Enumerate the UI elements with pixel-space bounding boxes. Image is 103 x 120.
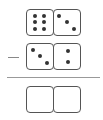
- pip: [33, 20, 37, 24]
- pip: [38, 54, 42, 58]
- pip: [33, 27, 37, 31]
- domino-half-six: [26, 9, 54, 36]
- minuend-domino: [26, 9, 82, 36]
- pip: [45, 61, 49, 65]
- answer-half-left[interactable]: [26, 86, 54, 113]
- pip: [65, 20, 69, 24]
- equals-rule: [7, 77, 100, 78]
- pip: [33, 14, 37, 18]
- domino-half-two: [53, 43, 81, 70]
- pip: [31, 48, 35, 52]
- pip: [66, 60, 70, 64]
- pip: [42, 14, 46, 18]
- pip: [42, 20, 46, 24]
- domino-half-three: [26, 43, 54, 70]
- minus-sign: [8, 57, 19, 58]
- subtrahend-domino: [26, 43, 82, 70]
- pip: [72, 27, 76, 31]
- pip: [42, 27, 46, 31]
- domino-half-three: [53, 9, 81, 36]
- answer-domino[interactable]: [26, 86, 82, 113]
- answer-half-right[interactable]: [53, 86, 81, 113]
- pip: [57, 14, 61, 18]
- pip: [66, 49, 70, 53]
